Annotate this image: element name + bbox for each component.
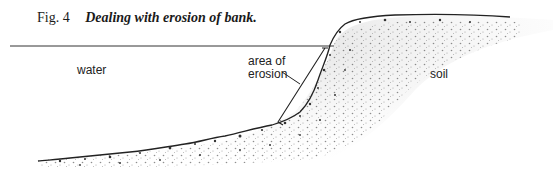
bank-erosion-illustration [0,0,553,172]
soil-body [38,16,553,168]
erosion-label-line2: erosion [248,68,287,81]
soil-label: soil [430,68,448,81]
erosion-label: area of erosion [248,55,287,81]
water-label: water [77,64,106,77]
